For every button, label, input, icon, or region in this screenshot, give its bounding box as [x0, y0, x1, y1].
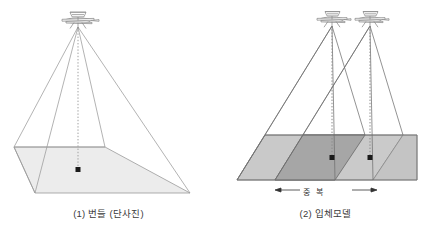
caption-stereo-model: (2) 입체모델 [217, 206, 434, 220]
nadir-point-right [368, 155, 373, 160]
airplane-icon [355, 12, 389, 28]
nadir-point-left [330, 155, 335, 160]
photogrammetry-figure: (1) 번들 (단사진) [0, 0, 434, 227]
overlap-arrow-icon [275, 188, 377, 192]
caption-single-photo: (1) 번들 (단사진) [0, 206, 217, 220]
stereo-model-diagram [217, 0, 434, 205]
single-photo-diagram [0, 0, 217, 205]
nadir-point-single [76, 167, 81, 172]
panel-single-photo: (1) 번들 (단사진) [0, 0, 217, 227]
panel-stereo-model: 중 복 (2) 입체모델 [217, 0, 434, 227]
overlap-label: 중 복 [303, 186, 325, 197]
airplane-icon [317, 12, 351, 28]
airplane-icon [62, 12, 99, 29]
